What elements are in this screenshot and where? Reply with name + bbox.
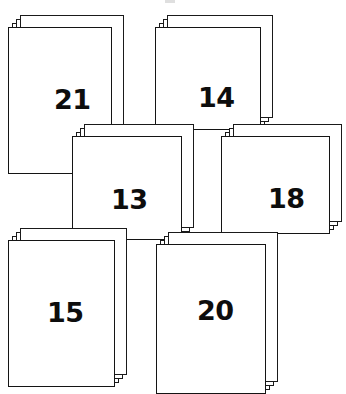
- paper-sheet-front: 14: [155, 27, 261, 130]
- stack-count-label: 14: [198, 84, 235, 111]
- stack-count-label: 21: [54, 86, 91, 113]
- stack-count-label: 18: [268, 185, 305, 212]
- scan-artifact: [165, 0, 175, 3]
- stack-count-label: 13: [111, 186, 148, 213]
- paper-stack: 18: [221, 124, 342, 234]
- paper-stack: 14: [155, 15, 273, 130]
- paper-stack: 15: [8, 228, 127, 387]
- paper-stack: 13: [72, 124, 194, 240]
- paper-sheet-front: 15: [8, 240, 115, 387]
- paper-sheet-front: 20: [156, 244, 266, 394]
- paper-sheet-front: 13: [72, 136, 182, 240]
- paper-stack: 20: [156, 232, 278, 394]
- stack-count-label: 15: [47, 299, 84, 326]
- paper-sheet-front: 18: [221, 136, 330, 234]
- stack-count-label: 20: [197, 297, 234, 324]
